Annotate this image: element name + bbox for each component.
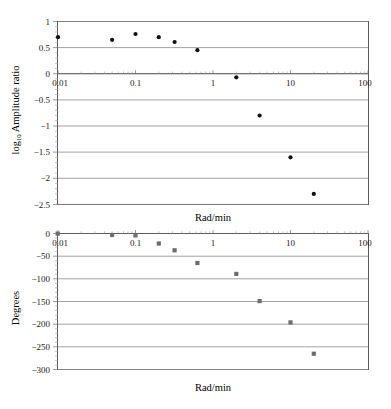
amplitude-y-axis-title: log10 Amplitude ratio — [10, 65, 22, 154]
xtick-label: 10 — [286, 238, 296, 248]
phase-y-tick-labels: 0 −50 −100 −150 −200 −250 −300 — [31, 229, 50, 375]
xtick-label: 100 — [358, 78, 372, 88]
data-point — [258, 113, 262, 117]
ytick-label: −300 — [31, 365, 50, 375]
ytick-label: 1 — [46, 17, 51, 27]
amplitude-x-axis-title: Rad/min — [195, 212, 232, 223]
ytick-label: −1 — [40, 121, 50, 131]
xtick-label: 100 — [358, 238, 372, 248]
amplitude-chart-svg: log10 Amplitude ratio — [0, 0, 391, 228]
ytick-label: 0 — [46, 69, 51, 79]
data-point — [56, 232, 60, 236]
amplitude-panel: log10 Amplitude ratio — [0, 0, 391, 228]
data-point — [157, 241, 161, 245]
xtick-label: 0.01 — [52, 238, 68, 248]
xtick-label: 1 — [211, 78, 216, 88]
ytick-label: −0.5 — [34, 95, 51, 105]
phase-x-axis-title: Rad/min — [195, 382, 232, 393]
data-point — [173, 248, 177, 252]
amplitude-plot-frame — [58, 22, 369, 205]
ytick-label: −250 — [31, 342, 50, 352]
ytick-label: −1.5 — [34, 147, 51, 157]
data-point — [133, 32, 137, 36]
data-point — [195, 48, 199, 52]
xtick-label: 0.1 — [130, 238, 141, 248]
data-point — [258, 299, 262, 303]
ytick-label: −2.5 — [34, 200, 51, 210]
xtick-label: 1 — [211, 238, 216, 248]
bode-plot-figure: log10 Amplitude ratio — [0, 0, 391, 409]
data-point — [56, 35, 60, 39]
amplitude-gridlines — [58, 22, 368, 205]
data-point — [110, 38, 114, 42]
ytick-label: −200 — [31, 319, 50, 329]
data-point — [312, 352, 316, 356]
data-point — [110, 233, 114, 237]
phase-data-points — [56, 232, 316, 356]
data-point — [312, 192, 316, 196]
ytick-label: −2 — [40, 173, 50, 183]
xtick-label: 10 — [286, 78, 296, 88]
ytick-label: −150 — [31, 297, 50, 307]
y-title-prefix: log — [10, 140, 21, 154]
data-point — [195, 261, 199, 265]
phase-x-tick-labels: 0.01 0.1 1 10 100 — [52, 238, 372, 248]
data-point — [234, 272, 238, 276]
data-point — [234, 75, 238, 79]
data-point — [288, 320, 292, 324]
phase-y-axis-title: Degrees — [10, 291, 21, 325]
xtick-label: 0.1 — [130, 78, 141, 88]
phase-panel: Degrees — [0, 228, 391, 409]
xtick-label: 0.01 — [52, 78, 68, 88]
phase-chart-svg: Degrees — [0, 228, 391, 409]
data-point — [157, 35, 161, 39]
svg-text:log10 Amplitude ratio: log10 Amplitude ratio — [10, 65, 22, 154]
data-point — [288, 155, 292, 159]
data-point — [133, 233, 137, 237]
amplitude-data-points — [56, 32, 316, 196]
data-point — [173, 40, 177, 44]
y-title-main-text: Amplitude ratio — [10, 65, 21, 132]
ytick-label: 0 — [46, 229, 51, 239]
amplitude-x-tick-labels: 0.01 0.1 1 10 100 — [52, 78, 372, 88]
ytick-label: −100 — [31, 274, 50, 284]
amplitude-y-tick-labels: 1 0.5 0 −0.5 −1 −1.5 −2 −2.5 — [34, 17, 51, 210]
phase-gridlines — [58, 234, 368, 370]
ytick-label: 0.5 — [39, 43, 51, 53]
ytick-label: −50 — [36, 251, 51, 261]
phase-y-title-text: Degrees — [10, 291, 21, 325]
